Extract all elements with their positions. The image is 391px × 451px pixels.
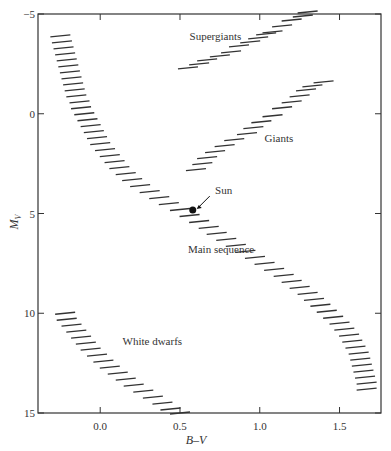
y-tick-label: 10 <box>24 307 36 319</box>
y-tick-label: −5 <box>23 8 35 20</box>
svg-text:MV: MV <box>7 213 23 230</box>
axis-ticks <box>38 14 381 413</box>
x-tick-label: 0.0 <box>93 420 107 432</box>
arrow-head-icon <box>197 205 202 209</box>
x-tick-label: 1.0 <box>253 420 267 432</box>
y-axis-label: MV <box>7 213 23 230</box>
series-giants <box>186 81 334 171</box>
sun-dot <box>189 207 196 214</box>
y-tick-label: 5 <box>30 208 36 220</box>
sun-marker <box>189 196 210 214</box>
annotation-white-dwarfs: White dwarfs <box>123 335 183 347</box>
x-tick-label: 1.5 <box>333 420 347 432</box>
annotation-main-sequence: Main sequence <box>188 243 254 255</box>
annotation-sun: Sun <box>215 184 233 196</box>
x-axis-label: B–V <box>186 433 208 447</box>
series-main-sequence <box>50 35 376 390</box>
annotation-supergiants: Supergiants <box>190 30 242 42</box>
data-series <box>50 11 376 414</box>
annotation-giants: Giants <box>265 132 294 144</box>
series-white-dwarfs <box>55 312 190 414</box>
annotations: SupergiantsGiantsSunMain sequenceWhite d… <box>123 30 294 347</box>
plot-frame <box>38 14 381 413</box>
x-tick-labels: 0.00.51.01.5 <box>93 420 347 432</box>
y-tick-label: 15 <box>24 407 36 419</box>
y-tick-label: 0 <box>30 108 36 120</box>
x-tick-label: 0.5 <box>173 420 187 432</box>
hr-diagram: 0.00.51.01.5 −5051015 SupergiantsGiantsS… <box>0 0 391 451</box>
y-tick-labels: −5051015 <box>23 8 35 419</box>
